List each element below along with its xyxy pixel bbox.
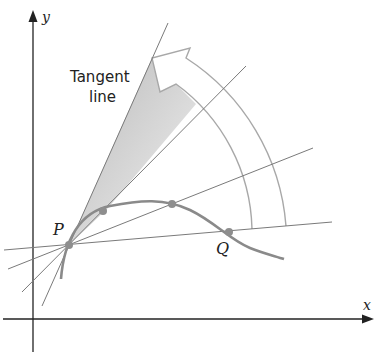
point-secant-2: [168, 200, 176, 208]
y-axis-arrow-icon: [29, 10, 38, 22]
tangent-line: [42, 23, 168, 306]
tangent-diagram: y x Tangent line P Q: [0, 0, 376, 362]
tangent-line-label-1: Tangent: [69, 68, 130, 86]
y-axis-label: y: [41, 9, 51, 25]
point-q: [225, 228, 233, 236]
point-p-label: P: [52, 220, 64, 239]
point-q-label: Q: [216, 239, 229, 258]
tangent-line-label-2: line: [89, 88, 116, 106]
x-axis-arrow-icon: [362, 315, 374, 324]
x-axis-label: x: [363, 297, 371, 313]
point-secant-3: [99, 207, 107, 215]
secant-line-2: [8, 148, 313, 269]
point-p: [65, 241, 73, 249]
